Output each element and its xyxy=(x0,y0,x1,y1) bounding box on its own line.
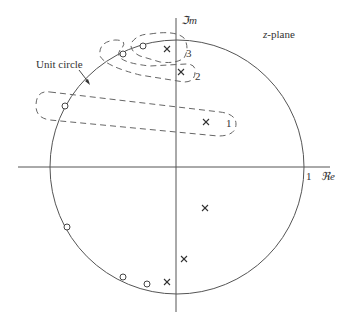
contour-1 xyxy=(36,92,236,136)
pole-marker-icon xyxy=(164,279,170,285)
imaginary-axis-label: ℑm xyxy=(181,14,197,26)
zero-marker-icon xyxy=(62,103,68,109)
z-plane-diagram: Unit circle ℑm ℜe 1 z-plane 1 2 3 xyxy=(0,0,352,319)
contour-2 xyxy=(100,40,195,82)
unit-circle-label: Unit circle xyxy=(36,58,83,70)
contour-label-2: 2 xyxy=(195,70,201,82)
pole-marker-icon xyxy=(164,46,170,52)
pole-marker-icon xyxy=(178,69,184,75)
contour-label-3: 3 xyxy=(186,47,192,59)
zero-marker-icon xyxy=(120,274,126,280)
zero-marker-icon xyxy=(64,224,70,230)
pole-marker-icon xyxy=(181,256,187,262)
arrowhead-icon xyxy=(85,79,90,85)
zeros xyxy=(62,43,150,287)
pole-marker-icon xyxy=(203,119,209,125)
real-axis-label: ℜe xyxy=(321,170,335,182)
zero-marker-icon xyxy=(144,281,150,287)
contour-3 xyxy=(131,33,187,63)
plane-label: z-plane xyxy=(262,28,295,40)
zero-marker-icon xyxy=(120,51,126,57)
zero-marker-icon xyxy=(140,43,146,49)
unit-tick-label: 1 xyxy=(306,170,312,182)
contour-label-1: 1 xyxy=(226,117,232,129)
pole-marker-icon xyxy=(202,205,208,211)
